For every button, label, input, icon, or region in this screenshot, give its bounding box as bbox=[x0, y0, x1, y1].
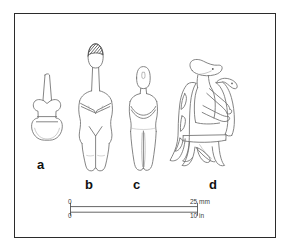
figure-label-b: b bbox=[85, 178, 93, 191]
scale-in-end-label: 10 in bbox=[190, 213, 204, 220]
figurine-b-drawing bbox=[79, 44, 113, 171]
scale-mm-end-label: 25 mm bbox=[190, 199, 210, 206]
scale-bar-graphic bbox=[71, 203, 198, 215]
figurine-illustrations bbox=[0, 0, 290, 252]
figure-label-c: c bbox=[133, 178, 140, 191]
figurine-d-drawing bbox=[170, 59, 237, 165]
figure-plate: a b c d 0 25 mm 0 10 in bbox=[0, 0, 290, 252]
scale-mm-start-label: 0 bbox=[68, 199, 72, 206]
figurine-c-drawing bbox=[129, 67, 157, 171]
figure-label-a: a bbox=[37, 158, 44, 171]
scale-in-start-label: 0 bbox=[68, 213, 72, 220]
figurine-a-drawing bbox=[32, 74, 63, 140]
caption-text bbox=[14, 243, 276, 252]
figure-label-d: d bbox=[209, 178, 217, 191]
